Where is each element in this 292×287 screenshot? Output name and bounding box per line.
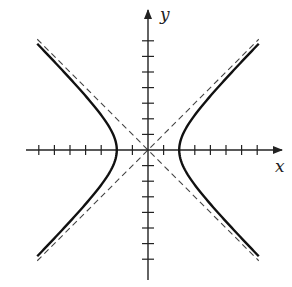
- y-axis-label: y: [159, 4, 170, 24]
- x-axis-label: x: [275, 156, 285, 176]
- hyperbola-diagram: x y: [0, 0, 292, 287]
